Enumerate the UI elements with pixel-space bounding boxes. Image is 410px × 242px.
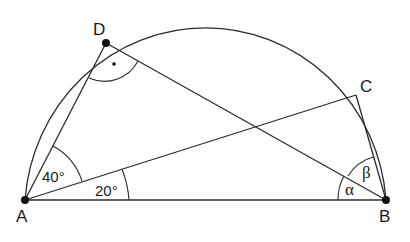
segment-ac xyxy=(25,95,356,200)
point-b xyxy=(382,196,390,204)
label-b: B xyxy=(379,207,390,226)
segment-bc xyxy=(356,95,386,200)
angle-arc-cab xyxy=(122,169,129,200)
label-beta: β xyxy=(362,163,371,182)
geometry-diagram: D C A B 40° 20° α β xyxy=(0,0,410,242)
point-d xyxy=(102,39,110,47)
label-c: C xyxy=(360,77,372,96)
angle-arc-alpha xyxy=(338,176,344,200)
label-angle-40: 40° xyxy=(42,168,65,185)
label-alpha: α xyxy=(345,180,354,199)
label-d: D xyxy=(93,20,105,39)
segment-ad xyxy=(25,43,106,200)
label-angle-20: 20° xyxy=(95,182,118,199)
point-a xyxy=(21,196,29,204)
right-angle-dot xyxy=(112,62,116,66)
label-a: A xyxy=(16,207,28,226)
